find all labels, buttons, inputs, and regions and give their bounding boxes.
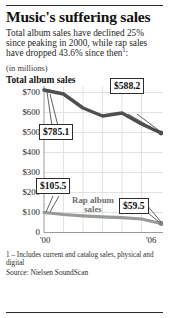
infographic-card: Music's suffering sales Total album sale…	[0, 0, 169, 318]
page-title: Music's suffering sales	[6, 9, 163, 25]
x-tick-2000: '00	[40, 235, 50, 245]
units-label: (in millions)	[6, 64, 163, 73]
footnote: 1 – Includes current and catalog sales, …	[6, 251, 163, 267]
callout-album-end: $588.2	[110, 78, 144, 94]
bottom-divider	[6, 312, 163, 313]
rap-series-label: Rap album sales	[64, 196, 122, 215]
rap-series-label-line2: sales	[84, 204, 102, 214]
x-tick-2006: '06	[146, 235, 156, 245]
callout-album-peak: $785.1	[39, 124, 73, 140]
subtitle: Total album sales have declined 25% sinc…	[6, 28, 163, 59]
top-divider	[6, 5, 163, 6]
source-credit: Source: Nielsen SoundScan	[6, 269, 163, 277]
subtitle-trailing: :	[125, 48, 128, 58]
chart-plot-area: $700 $600 $500 $400 $300 $200 $100 0	[6, 86, 163, 249]
callout-rap-peak: $105.5	[36, 178, 70, 194]
callout-rap-end: $59.5	[119, 198, 149, 214]
chart-svg	[6, 86, 163, 249]
